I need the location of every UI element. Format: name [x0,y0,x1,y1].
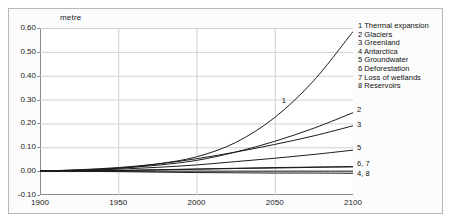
legend-item: 8 Reservoirs [358,82,429,91]
y-axis-label: metre [60,13,81,22]
series-line-2 [40,113,353,171]
series-lines [40,28,353,195]
series-end-label: 2 [357,105,361,114]
series-end-label: 5 [357,143,361,152]
series-line-1 [40,32,353,172]
chart-figure: metre 0.600.500.400.300.200.100.00-0.101… [0,0,451,223]
series-end-label: 4, 8 [357,169,370,178]
plot-area [40,28,353,195]
series-end-label: 1 [282,96,286,105]
series-end-label: 3 [357,120,361,129]
legend: 1 Thermal expansion 2 Glaciers 3 Greenla… [358,22,429,91]
series-line-3 [40,126,353,171]
series-end-label: 6, 7 [357,159,370,168]
